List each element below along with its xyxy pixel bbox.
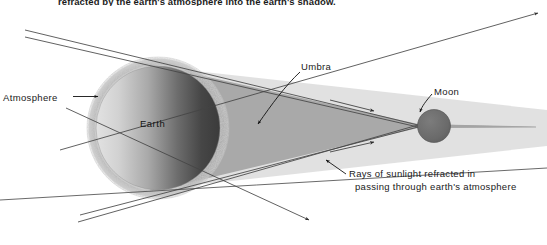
label-earth: Earth — [140, 118, 165, 129]
eclipse-diagram: refracted by the earth's atmosphere into… — [0, 0, 547, 245]
diagram-canvas — [0, 0, 547, 245]
label-rays-line2: passing through earth's atmosphere — [349, 181, 516, 194]
label-moon: Moon — [434, 86, 459, 97]
label-umbra: Umbra — [301, 61, 331, 72]
label-rays-of-sunlight: Rays of sunlight refracted in passing th… — [349, 168, 516, 193]
moon-body — [418, 110, 451, 143]
label-atmosphere: Atmosphere — [3, 92, 58, 103]
label-rays-line1: Rays of sunlight refracted in — [349, 168, 475, 179]
figure-caption-top: refracted by the earth's atmosphere into… — [58, 0, 478, 6]
